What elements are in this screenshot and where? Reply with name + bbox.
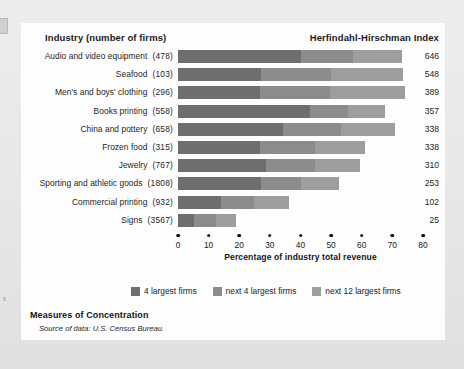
bar-segment-2 [221,196,255,209]
bar-segment-3 [315,159,360,172]
firm-count: (296) [147,87,173,97]
row-label-5: Frozen food (315) [21,142,173,152]
axis-tick-label: 50 [326,240,335,250]
chart-legend: 4 largest firmsnext 4 largest firmsnext … [131,286,401,296]
bar-segment-1 [178,196,221,209]
firm-count: (558) [147,106,173,116]
stacked-bar [178,68,403,81]
hhi-value: 646 [425,51,439,61]
stacked-bar [178,159,360,172]
legend-swatch-icon [213,287,222,296]
industry-name: Jewelry [119,160,148,170]
table-row: China and pottery (658)338 [21,121,445,139]
stacked-bar [178,177,339,190]
industry-name: Men's and boys' clothing [55,87,147,97]
bar-segment-3 [353,50,402,63]
bar-segment-2 [194,214,215,227]
table-row: Frozen food (315)338 [21,139,445,157]
stacked-bar [178,214,236,227]
bar-area [178,196,423,209]
firm-count: (478) [147,51,173,61]
bar-segment-1 [178,159,266,172]
table-row: Jewelry (767)310 [21,157,445,175]
figure-panel: Industry (number of firms) Herfindahl-Hi… [21,23,445,340]
figure-title: Measures of Concentration [30,310,149,320]
bar-segment-3 [315,141,365,154]
legend-item-2[interactable]: next 4 largest firms [213,286,297,296]
source-value: U.S. Census Bureau. [93,324,164,333]
source-label: Source of data: [39,324,91,333]
legend-swatch-icon [312,287,321,296]
row-label-7: Sporting and athletic goods (1808) [21,178,173,188]
firm-count: (103) [147,69,173,79]
hhi-value: 310 [425,160,439,170]
row-label-2: Men's and boys' clothing (296) [21,87,173,97]
column-header-industry: Industry (number of firms) [45,32,166,43]
axis-tick-dot [176,234,180,238]
firm-count: (767) [147,160,173,170]
bar-segment-2 [301,50,353,63]
bar-segment-1 [178,214,194,227]
bar-area [178,50,423,63]
bar-area [178,86,423,99]
bar-segment-1 [178,50,301,63]
row-label-6: Jewelry (767) [21,160,173,170]
table-row: Signs (3567)25 [21,212,445,230]
axis-tick-label: 20 [235,240,244,250]
legend-item-1[interactable]: 4 largest firms [131,286,197,296]
axis-tick-dot [391,234,395,238]
page-edge-mark [3,297,6,301]
bar-area [178,123,423,136]
axis-title: Percentage of industry total revenue [178,252,423,262]
bar-segment-2 [260,86,330,99]
bar-segment-2 [261,177,301,190]
bar-segment-2 [310,105,348,118]
row-label-1: Seafood (103) [21,69,173,79]
hhi-value: 389 [425,87,439,97]
industry-name: China and pottery [80,124,147,134]
stacked-bar [178,50,402,63]
hhi-value: 25 [429,215,439,225]
axis-tick-label: 60 [357,240,366,250]
stacked-bar [178,86,405,99]
row-label-8: Commercial printing (932) [21,197,173,207]
table-row: Seafood (103)548 [21,66,445,84]
bar-area [178,105,423,118]
bar-segment-1 [178,141,260,154]
axis-tick-label: 0 [176,240,181,250]
bar-segment-1 [178,177,261,190]
hhi-value: 102 [425,197,439,207]
firm-count: (658) [147,124,173,134]
legend-label: 4 largest firms [144,286,197,296]
industry-name: Audio and video equipment [45,51,148,61]
bar-segment-1 [178,68,261,81]
industry-name: Commercial printing [72,197,147,207]
bar-segment-2 [283,123,341,136]
legend-label: next 4 largest firms [226,286,297,296]
bar-area [178,177,423,190]
stacked-bar [178,196,289,209]
hhi-value: 253 [425,178,439,188]
firm-count: (315) [147,142,173,152]
firm-count: (932) [147,197,173,207]
bar-segment-3 [216,214,237,227]
bar-segment-1 [178,123,283,136]
table-row: Audio and video equipment (478)646 [21,48,445,66]
legend-item-3[interactable]: next 12 largest firms [312,286,400,296]
axis-host: 01020304050607080Percentage of industry … [21,230,445,264]
industry-name: Sporting and athletic goods [40,178,143,188]
axis-tick-label: 10 [204,240,213,250]
bar-segment-3 [254,196,289,209]
bar-segment-3 [341,123,395,136]
firm-count: (3567) [143,215,173,225]
axis-tick-dot [207,234,211,238]
bar-segment-3 [301,177,339,190]
bar-chart-plot: Audio and video equipment (478)646Seafoo… [21,48,445,264]
page-edge-tab [0,18,8,34]
bar-segment-3 [331,68,403,81]
stacked-bar [178,123,395,136]
table-row: Sporting and athletic goods (1808)253 [21,175,445,193]
industry-name: Seafood [116,69,148,79]
hhi-value: 338 [425,124,439,134]
table-row: Men's and boys' clothing (296)389 [21,84,445,102]
